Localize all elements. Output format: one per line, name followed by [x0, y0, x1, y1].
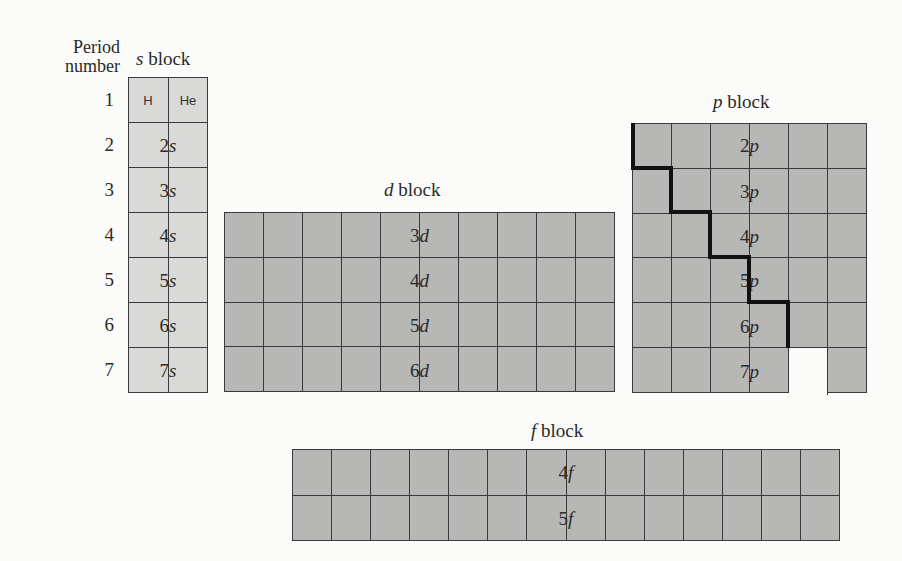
s-block-title: s block: [136, 49, 190, 68]
d-block-title-word: block: [394, 179, 441, 200]
period-number-5: 5: [96, 270, 114, 289]
orbital-label-4f: 4f: [559, 463, 574, 482]
d-block-title: d block: [384, 180, 440, 199]
orbital-label-3p: 3p: [740, 181, 759, 200]
orbital-label-4s: 4s: [160, 226, 177, 245]
s-block-title-word: block: [143, 48, 190, 69]
orbital-label-6d: 6d: [410, 360, 429, 379]
orbital-label-3d: 3d: [410, 225, 429, 244]
period-number-header: Period number: [52, 38, 120, 76]
orbital-label-6s: 6s: [160, 316, 177, 335]
f-block-title: f block: [531, 421, 583, 440]
period-number-1: 1: [96, 90, 114, 109]
period-number-3: 3: [96, 180, 114, 199]
d-block-title-letter: d: [384, 179, 394, 200]
orbital-label-4p: 4p: [740, 226, 759, 245]
period-header-line2: number: [52, 57, 120, 76]
p-block-title-word: block: [723, 91, 770, 112]
period-header-line1: Period: [52, 38, 120, 57]
element-h: H: [143, 92, 152, 107]
orbital-label-5s: 5s: [160, 271, 177, 290]
f-block-labels: 4f 5f: [292, 449, 840, 541]
p-block-title-letter: p: [713, 91, 723, 112]
period-number-4: 4: [96, 225, 114, 244]
orbital-label-3s: 3s: [160, 180, 177, 199]
orbital-label-7p: 7p: [740, 361, 759, 380]
p-block-title: p block: [713, 92, 769, 111]
orbital-label-7s: 7s: [160, 361, 177, 380]
period-number-7: 7: [96, 360, 114, 379]
period-number-6: 6: [96, 315, 114, 334]
orbital-label-2s: 2s: [160, 135, 177, 154]
orbital-label-5f: 5f: [559, 509, 574, 528]
f-block-title-word: block: [536, 420, 583, 441]
orbital-label-4d: 4d: [410, 270, 429, 289]
period-number-2: 2: [96, 135, 114, 154]
orbital-label-2p: 2p: [740, 136, 759, 155]
d-block-labels: 3d 4d 5d 6d: [224, 212, 615, 392]
orbital-label-6p: 6p: [740, 316, 759, 335]
s-block-labels: H He 2s 3s 4s 5s 6s 7s: [128, 77, 208, 393]
orbital-label-5d: 5d: [410, 315, 429, 334]
element-he: He: [180, 92, 197, 107]
